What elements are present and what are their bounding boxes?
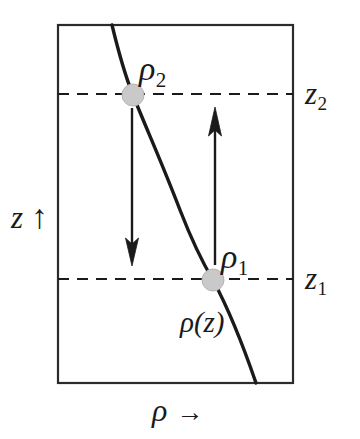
label-curve-base: ρ [180, 306, 194, 338]
marker-rho2 [122, 84, 144, 106]
axis-label-rho-symbol: ρ [152, 392, 167, 428]
plot-frame [58, 25, 293, 383]
label-z1-subscript: 1 [317, 278, 327, 299]
label-rho1: ρ1 [221, 240, 248, 274]
axis-label-z-symbol: z [11, 200, 23, 235]
label-rho2: ρ2 [139, 52, 166, 86]
label-rho1-base: ρ [221, 238, 237, 275]
arrow-right-icon: → [176, 399, 203, 426]
label-rho2-base: ρ [139, 50, 155, 87]
label-z1-base: z [305, 261, 317, 296]
label-level-z2: z2 [305, 78, 327, 109]
axis-label-rho: ρ→ [152, 394, 203, 426]
label-z2-subscript: 2 [317, 93, 327, 114]
downward-displacement-arrow [126, 108, 139, 266]
label-rho1-subscript: 1 [238, 256, 249, 280]
upward-displacement-arrow [209, 107, 222, 265]
label-z2-base: z [305, 76, 317, 111]
label-level-z1: z1 [305, 263, 327, 294]
axis-label-z: z↑ [11, 200, 48, 234]
figure-canvas [0, 0, 360, 439]
label-curve-rho-of-z: ρ(z) [180, 308, 225, 337]
label-rho2-subscript: 2 [156, 68, 167, 92]
label-curve-args: (z) [194, 306, 225, 338]
arrow-up-icon: ↑ [31, 200, 48, 234]
density-profile-figure: ρ2 ρ1 ρ(z) z2 z1 z↑ ρ→ [0, 0, 360, 439]
